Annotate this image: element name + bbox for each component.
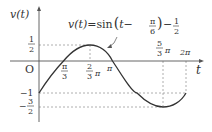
svg-text:2: 2 (29, 45, 34, 54)
origin-label: O (25, 63, 34, 76)
svg-text:1: 1 (174, 17, 179, 26)
x-tick-pi3: π 3 (61, 62, 68, 81)
svg-text:−: − (19, 101, 27, 111)
svg-text:π: π (94, 69, 101, 78)
y-tick-neg32: − 3 2 (19, 97, 34, 116)
svg-text:2: 2 (87, 62, 92, 71)
svg-text:π: π (62, 62, 67, 71)
svg-text:5: 5 (157, 39, 162, 48)
y-tick-half: 1 2 (28, 35, 35, 54)
x-tick-2pi3: 2 3 π (86, 62, 101, 81)
annotation-arrow-icon (107, 44, 112, 48)
sine-graph: v(t) t O v(t)=sin(t− π 6 ) − 1 2 1 2 −1 … (0, 0, 212, 132)
x-tick-5pi3: 5 3 π (156, 39, 171, 58)
svg-text:v(t)=sin(t−: v(t)=sin(t− (68, 15, 133, 31)
x-tick-pi: π (106, 64, 113, 73)
x-tick-2pi: 2π (179, 48, 191, 57)
svg-text:3: 3 (28, 97, 33, 106)
eq-frac-den: 6 (150, 27, 155, 36)
eq-frac-num: π (150, 17, 155, 26)
x-axis-label: t (196, 63, 201, 77)
svg-text:3: 3 (87, 72, 92, 81)
svg-text:2: 2 (28, 107, 33, 116)
y-axis-arrow-icon (37, 6, 41, 11)
y-axis-label: v(t) (10, 8, 29, 21)
svg-text:π: π (164, 46, 171, 55)
svg-text:1: 1 (29, 35, 34, 44)
svg-text:−: − (163, 18, 172, 31)
svg-text:3: 3 (157, 49, 162, 58)
svg-text:2: 2 (174, 27, 179, 36)
equation-label: v(t)=sin(t− π 6 ) − 1 2 (68, 15, 179, 36)
svg-text:): ) (157, 15, 162, 31)
svg-text:3: 3 (62, 72, 67, 81)
